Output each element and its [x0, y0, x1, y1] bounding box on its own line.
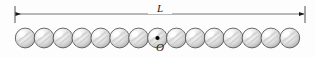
origin-label: O: [150, 42, 170, 53]
length-label: L: [148, 3, 172, 14]
label-layer: L O: [0, 0, 315, 57]
sphere-chain-figure: L O: [0, 0, 315, 57]
